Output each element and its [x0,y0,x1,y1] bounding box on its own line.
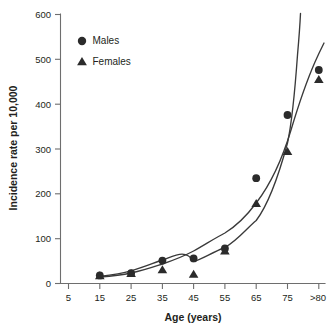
x-tick-label-55: 55 [220,292,231,303]
male-point-15 [96,272,104,280]
males-fit-curve [100,14,301,277]
x-axis-ticks [69,284,319,290]
incidence-rate-chart-figure: 0 100 200 300 400 500 600 5 15 25 35 45 [0,0,333,329]
legend-females-triangle-icon [77,57,87,65]
y-tick-label-500: 500 [35,54,51,65]
y-tick-label-400: 400 [35,99,51,110]
y-axis-tick-labels: 0 100 200 300 400 500 600 [35,9,51,289]
x-tick-label-80plus: >80 [310,292,326,303]
y-tick-label-200: 200 [35,188,51,199]
legend-females-label: Females [93,56,131,67]
y-tick-label-100: 100 [35,233,51,244]
female-point-65 [251,199,261,207]
female-point-80plus [314,75,324,83]
x-tick-label-65: 65 [251,292,262,303]
x-tick-label-5: 5 [66,292,71,303]
x-tick-label-25: 25 [126,292,137,303]
y-tick-label-0: 0 [46,278,51,289]
male-point-25 [127,269,135,277]
male-point-80plus [315,66,323,74]
y-tick-label-600: 600 [35,9,51,20]
y-axis-ticks [55,15,61,284]
legend-males-circle-icon [78,37,86,45]
males-data-markers [96,66,323,279]
females-data-markers [95,75,324,279]
male-point-55 [221,245,229,253]
chart-canvas: 0 100 200 300 400 500 600 5 15 25 35 45 [0,0,333,329]
male-point-65 [252,174,260,182]
x-tick-label-45: 45 [188,292,199,303]
legend-males-label: Males [93,35,120,46]
females-fit-curve [100,43,324,277]
x-tick-label-75: 75 [282,292,293,303]
chart-legend: Males Females [77,35,131,67]
y-axis-title: Incidence rate per 10,000 [7,85,19,210]
female-point-45 [189,270,199,278]
x-tick-label-15: 15 [95,292,106,303]
male-point-75 [284,111,292,119]
female-point-35 [158,265,168,273]
male-point-35 [159,257,167,265]
x-axis-tick-labels: 5 15 25 35 45 55 65 75 >80 [66,292,326,303]
x-tick-label-35: 35 [157,292,168,303]
x-axis-title: Age (years) [164,311,221,323]
y-tick-label-300: 300 [35,144,51,155]
male-point-45 [190,255,198,263]
